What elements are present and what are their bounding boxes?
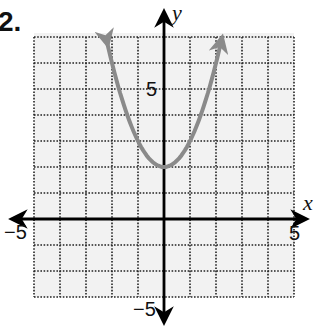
x-max-tick-label: 5 bbox=[289, 222, 300, 244]
coordinate-plane: x y −5 5 5 −5 bbox=[0, 0, 318, 330]
x-min-tick-label: −5 bbox=[4, 221, 27, 243]
y-neg-tick-label: −5 bbox=[133, 298, 156, 320]
y-axis-label: y bbox=[170, 0, 182, 25]
y-pos-tick-label: 5 bbox=[146, 78, 157, 100]
x-axis-label: x bbox=[302, 190, 313, 215]
